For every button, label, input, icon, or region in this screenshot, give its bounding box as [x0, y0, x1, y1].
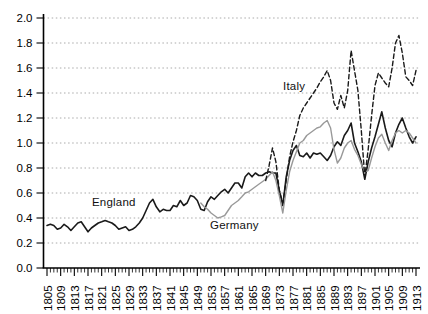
x-tick-label: 1817 [83, 285, 95, 311]
gridlines [44, 18, 421, 243]
germany-series-line [201, 121, 416, 219]
x-tick-label: 1873 [274, 285, 286, 311]
x-tick-label: 1901 [370, 285, 382, 311]
x-tick-label: 1861 [233, 285, 245, 311]
x-tick-label: 1877 [288, 285, 300, 311]
y-axis-tick-labels: 0.00.20.40.60.81.01.21.41.61.82.0 [17, 12, 34, 274]
y-axis-ticks [37, 18, 44, 268]
germany-series-label: Germany [210, 219, 259, 231]
x-tick-label: 1821 [96, 285, 108, 311]
x-tick-label: 1913 [411, 285, 423, 311]
x-tick-label: 1841 [165, 285, 177, 311]
x-tick-label: 1813 [69, 285, 81, 311]
y-tick-label: 0.2 [17, 237, 33, 249]
x-tick-label: 1885 [315, 285, 327, 311]
x-tick-label: 1853 [206, 285, 218, 311]
x-tick-label: 1845 [178, 285, 190, 311]
england-series-line [47, 112, 416, 232]
y-tick-label: 1.4 [17, 87, 34, 99]
y-tick-label: 1.2 [17, 112, 33, 124]
x-tick-label: 1893 [342, 285, 354, 311]
x-tick-label: 1849 [192, 285, 204, 311]
y-tick-label: 1.6 [17, 62, 33, 74]
x-tick-label: 1809 [55, 285, 67, 311]
line-chart-canvas: 0.00.20.40.60.81.01.21.41.61.82.0 180518… [0, 0, 428, 314]
chart: 0.00.20.40.60.81.01.21.41.61.82.0 180518… [0, 0, 428, 314]
x-tick-label: 1909 [397, 285, 409, 311]
y-tick-label: 0.0 [17, 262, 33, 274]
x-tick-label: 1825 [110, 285, 122, 311]
italy-series-label: Italy [283, 80, 305, 92]
x-tick-label: 1865 [247, 285, 259, 311]
x-tick-label: 1857 [219, 285, 231, 311]
y-tick-label: 0.8 [17, 162, 33, 174]
x-tick-label: 1881 [301, 285, 313, 311]
x-tick-label: 1889 [329, 285, 341, 311]
x-tick-label: 1905 [383, 285, 395, 311]
x-tick-label: 1833 [137, 285, 149, 311]
x-tick-label: 1805 [42, 285, 54, 311]
x-axis-ticks [47, 268, 416, 276]
x-tick-label: 1837 [151, 285, 163, 311]
england-series-label: England [92, 196, 136, 208]
y-tick-label: 1.8 [17, 37, 33, 49]
x-tick-label: 1897 [356, 285, 368, 311]
x-tick-label: 1829 [124, 285, 136, 311]
x-axis-tick-labels: 1805180918131817182118251829183318371841… [42, 285, 423, 311]
y-tick-label: 0.6 [17, 187, 33, 199]
y-tick-label: 2.0 [17, 12, 33, 24]
x-tick-label: 1869 [260, 285, 272, 311]
y-tick-label: 1.0 [17, 137, 33, 149]
y-tick-label: 0.4 [17, 212, 34, 224]
